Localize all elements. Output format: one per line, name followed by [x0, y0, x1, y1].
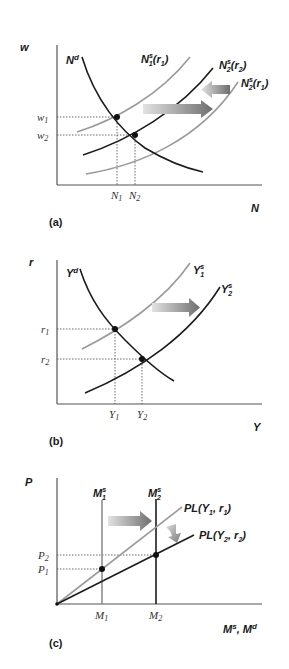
- shift-right-arrow-icon: [152, 298, 200, 317]
- equilibrium-point-2: [132, 132, 138, 138]
- w2-n2-guide: [57, 135, 135, 185]
- tick-r1: r1: [41, 323, 49, 337]
- labor-supply-curve-n2-r1: [86, 82, 238, 174]
- tick-w2: w2: [37, 129, 48, 143]
- y-axis-label-p: P: [25, 476, 33, 488]
- equilibrium-point-1: [99, 566, 105, 572]
- label-yd: Yd: [66, 266, 79, 279]
- equilibrium-point-2: [139, 356, 145, 362]
- x-axis-label-n: N: [251, 202, 260, 214]
- panel-a-labor-market: w N Nd Ns1(r1) Ns2(r2) Ns2(r1) w1 w2 N1 …: [20, 41, 269, 228]
- tick-w1: w1: [37, 111, 48, 125]
- goods-demand-curve-yd: [80, 269, 174, 381]
- label-pl-y2-r2: PL(Y2, r2): [199, 529, 246, 543]
- tick-y1: Y1: [109, 408, 119, 422]
- equilibrium-point-1: [114, 114, 120, 120]
- equilibrium-point-1: [112, 326, 118, 332]
- shift-left-arrow-icon: [201, 81, 230, 98]
- label-y2s: Ys2: [221, 282, 232, 297]
- label-m1s: Ms1: [93, 486, 106, 501]
- shift-right-arrow-icon: [108, 511, 152, 531]
- tick-n2: N2: [128, 189, 140, 203]
- tick-p2: P2: [37, 549, 49, 563]
- tick-r2: r2: [41, 353, 49, 367]
- label-m2s: Ms2: [148, 486, 161, 501]
- label-y1s: Ys1: [193, 263, 204, 278]
- panel-label-b: (b): [49, 435, 63, 447]
- y-axis-label-w: w: [20, 41, 30, 53]
- labor-supply-curve-n1-r1: [77, 57, 190, 132]
- label-n1s-r1: Ns1(r1): [141, 52, 169, 67]
- economics-figure: w N Nd Ns1(r1) Ns2(r2) Ns2(r1) w1 w2 N1 …: [0, 0, 289, 669]
- x-axis-label-y: Y: [253, 421, 262, 433]
- equilibrium-point-2: [153, 552, 159, 558]
- tick-m2: M2: [148, 609, 162, 623]
- y-axis-label-r: r: [29, 256, 34, 268]
- tick-m1: M1: [94, 609, 108, 623]
- panel-c-money-market: P Ms, Md Ms1 Ms2 PL(Y1, r1) PL(Y2, r2) P…: [25, 476, 262, 649]
- r2-y2-guide: [57, 359, 142, 404]
- panel-b-goods-market: r Y Yd Ys1 Ys2 r1 r2 Y1 Y2 (b): [29, 256, 262, 447]
- origin-point: [55, 602, 59, 606]
- panel-label-a: (a): [49, 216, 63, 228]
- labor-demand-curve: [82, 57, 203, 172]
- label-n2s-r2: Ns2(r2): [219, 58, 247, 73]
- label-nd: Nd: [66, 53, 80, 66]
- label-pl-y1-r1: PL(Y1, r1): [184, 502, 231, 516]
- tick-y2: Y2: [137, 408, 147, 422]
- label-n2s-r1: Ns2(r1): [241, 76, 269, 91]
- rotate-down-arrow-icon: [166, 524, 181, 543]
- w1-n1-guide: [57, 117, 117, 185]
- x-axis-label-ms-md: Ms, Md: [223, 622, 258, 635]
- tick-n1: N1: [110, 189, 122, 203]
- money-demand-line-pl-y2-r2: [57, 535, 194, 604]
- panel-label-c: (c): [49, 637, 63, 649]
- tick-p1: P1: [37, 563, 49, 577]
